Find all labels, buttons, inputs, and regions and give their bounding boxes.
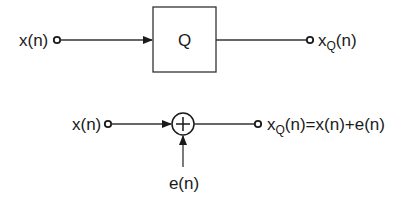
bottom-output-terminal-icon — [255, 121, 261, 127]
additive-noise-row: x(n) e(n) xQ(n)=x(n)+e(n) — [72, 113, 385, 193]
top-input-label: x(n) — [19, 31, 48, 50]
quantizer-row: x(n) Q xQ(n) — [19, 7, 357, 72]
bottom-input-terminal-icon — [105, 121, 111, 127]
quantizer-diagram: x(n) Q xQ(n) x(n) e(n) xQ(n)=x(n)+e(n) — [0, 0, 418, 203]
quantizer-block-label: Q — [178, 31, 191, 50]
top-output-terminal-icon — [307, 37, 313, 43]
bottom-output-label: xQ(n)=x(n)+e(n) — [267, 115, 385, 137]
bottom-input-label: x(n) — [72, 115, 101, 134]
top-output-label: xQ(n) — [318, 31, 357, 53]
top-input-terminal-icon — [54, 37, 60, 43]
adder-icon — [172, 113, 194, 135]
noise-label: e(n) — [169, 174, 199, 193]
